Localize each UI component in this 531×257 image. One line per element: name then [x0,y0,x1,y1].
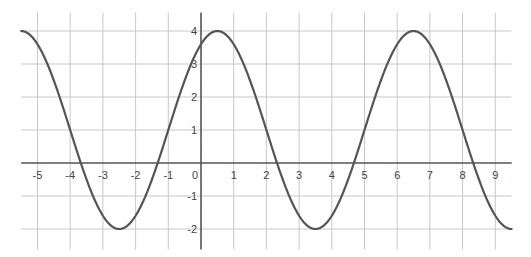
y-tick-label: 2 [191,91,197,103]
x-tick-label: -3 [98,169,108,181]
x-tick-label: 7 [427,169,433,181]
x-tick-label: 5 [361,169,367,181]
x-tick-label: 3 [296,169,302,181]
function-graph: -5-4-3-2-10123456789 -2-11234 [0,0,531,257]
x-tick-label: -5 [33,169,43,181]
x-tick-label: 8 [460,169,466,181]
x-tick-label: 2 [263,169,269,181]
y-tick-label: 1 [191,124,197,136]
x-tick-label: -1 [163,169,173,181]
y-tick-label: -2 [187,223,197,235]
x-tick-label: -4 [65,169,75,181]
y-tick-label: 4 [191,25,197,37]
x-tick-labels: -5-4-3-2-10123456789 [33,169,499,181]
x-tick-label: -2 [131,169,141,181]
y-tick-label: -1 [187,190,197,202]
x-tick-label: 6 [394,169,400,181]
x-tick-label: 9 [492,169,498,181]
x-tick-label: 4 [329,169,335,181]
x-tick-label: 0 [192,169,198,181]
x-tick-label: 1 [231,169,237,181]
